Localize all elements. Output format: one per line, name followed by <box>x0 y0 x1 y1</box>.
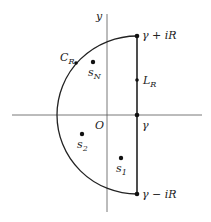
l-r-label: LR <box>142 74 156 89</box>
singularity-s-2 <box>80 132 84 136</box>
bromwich-contour-diagram: y O γ + iR γ γ − iR CR LR sN s2 s1 <box>0 0 211 222</box>
singularity-s-n <box>91 60 95 64</box>
point-gamma <box>135 113 140 118</box>
s-n-label: sN <box>88 66 102 81</box>
origin-label: O <box>95 119 104 132</box>
c-r-label: CR <box>60 51 74 66</box>
s-2-label: s2 <box>77 138 88 153</box>
singularity-s-1 <box>119 156 123 160</box>
point-c-r <box>74 61 78 65</box>
y-axis-label: y <box>95 10 103 23</box>
point-l-r <box>135 78 139 82</box>
point-top <box>135 34 140 39</box>
point-bottom <box>135 192 140 197</box>
gamma-label: γ <box>142 119 149 132</box>
top-point-label: γ + iR <box>142 29 177 42</box>
s-1-label: s1 <box>116 162 127 177</box>
bottom-point-label: γ − iR <box>142 188 177 201</box>
